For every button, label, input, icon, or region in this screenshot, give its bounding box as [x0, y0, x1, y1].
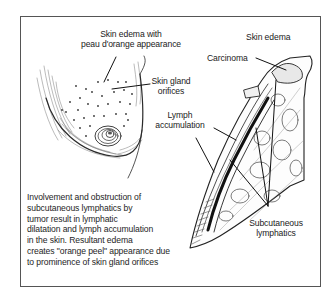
breast-hatching — [37, 62, 142, 158]
label-skin-gland-orifices: Skin gland orifices — [148, 76, 194, 97]
nipple — [95, 126, 121, 146]
label-skin-edema-peau: Skin edema with peau d'orange appearance — [68, 29, 194, 50]
caption-line: creates "orange peel" appearance due — [27, 246, 170, 257]
label-subcutaneous-lymphatics: Subcutaneous lymphatics — [244, 218, 308, 239]
caption-line: in the skin. Resultant edema — [27, 235, 170, 246]
caption-line: Involvement and obstruction of — [27, 192, 170, 203]
breast-illustration — [37, 56, 150, 178]
caption-line: subcutaneous lymphatics by — [27, 203, 170, 214]
caption-line: dilatation and lymph accumulation — [27, 224, 170, 235]
label-carcinoma: Carcinoma — [207, 53, 248, 63]
label-lymph-accumulation: Lymph accumulation — [148, 110, 212, 131]
caption-line: tumor result in lymphatic — [27, 214, 170, 225]
label-skin-edema: Skin edema — [246, 32, 290, 42]
caption-line: to prominence of skin gland orifices — [27, 257, 170, 268]
figure-caption: Involvement and obstruction of subcutane… — [27, 192, 170, 268]
